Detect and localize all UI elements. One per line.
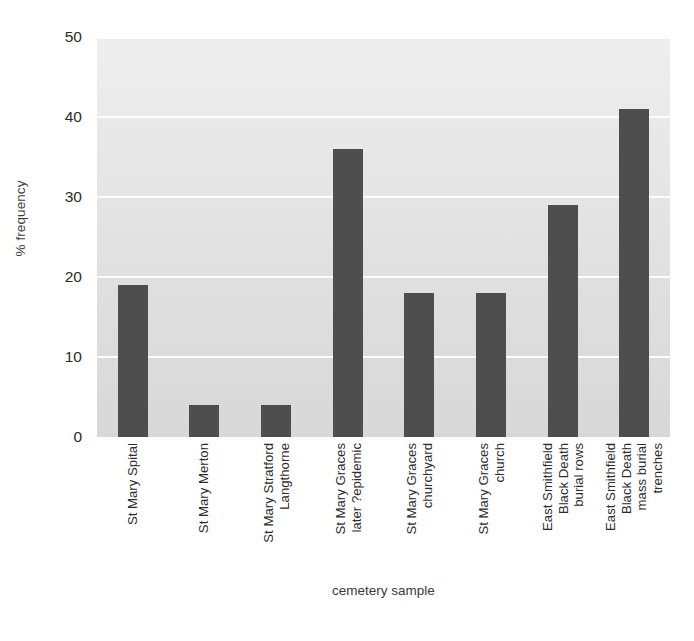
y-axis-tick-label: 30 bbox=[65, 188, 82, 206]
bar[interactable] bbox=[118, 285, 148, 437]
y-axis-tick-labels: 01020304050 bbox=[38, 0, 90, 641]
x-axis-tick-label: St Mary Graces church bbox=[475, 443, 506, 583]
y-axis-title-text: % frequency bbox=[13, 180, 28, 256]
bar[interactable] bbox=[476, 293, 506, 437]
gridline bbox=[97, 356, 670, 358]
bar[interactable] bbox=[619, 109, 649, 437]
x-axis-tick-label: St Mary Stratford Langthorne bbox=[261, 443, 292, 583]
x-axis-tick-label: St Mary Spital bbox=[125, 443, 141, 583]
y-axis-tick-label: 20 bbox=[65, 268, 82, 286]
plot-area bbox=[97, 37, 670, 437]
y-axis-tick-label: 50 bbox=[65, 28, 82, 46]
gridline bbox=[97, 276, 670, 278]
y-axis-tick-label: 0 bbox=[73, 428, 82, 446]
x-axis-tick-labels: St Mary SpitalSt Mary MertonSt Mary Stra… bbox=[97, 437, 670, 582]
bar[interactable] bbox=[548, 205, 578, 437]
x-axis-tick-label: St Mary Graces later ?epidemic bbox=[332, 443, 363, 583]
bar[interactable] bbox=[189, 405, 219, 437]
x-axis-tick-label: East Smithfield Black Death mass burial … bbox=[603, 443, 665, 583]
bar-chart-figure: % frequency 01020304050 St Mary SpitalSt… bbox=[0, 0, 694, 641]
gridline bbox=[97, 116, 670, 118]
y-axis-tick-label: 10 bbox=[65, 348, 82, 366]
bar[interactable] bbox=[261, 405, 291, 437]
x-axis-tick-label: St Mary Merton bbox=[197, 443, 213, 583]
bar[interactable] bbox=[404, 293, 434, 437]
y-axis-title: % frequency bbox=[0, 0, 40, 437]
x-axis-title: cemetery sample bbox=[97, 583, 670, 598]
x-axis-tick-label: East Smithfield Black Death burial rows bbox=[539, 443, 586, 583]
bar[interactable] bbox=[333, 149, 363, 437]
x-axis-tick-label: St Mary Graces churchyard bbox=[404, 443, 435, 583]
gridline bbox=[97, 196, 670, 198]
y-axis-tick-label: 40 bbox=[65, 108, 82, 126]
gridline bbox=[97, 37, 670, 39]
